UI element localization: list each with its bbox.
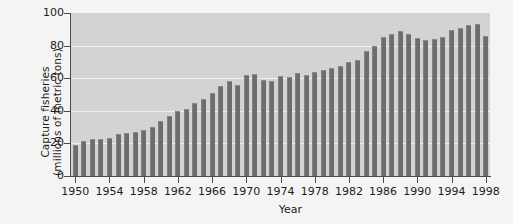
x-axis-tick (178, 177, 179, 183)
bar (98, 139, 103, 176)
y-axis-tick-label: 0 (8, 170, 64, 181)
y-axis-tick-label: 80 (8, 40, 64, 51)
bar (338, 66, 343, 176)
bar (141, 130, 146, 176)
bar (355, 60, 360, 176)
y-axis-tick (64, 143, 70, 144)
bar (252, 74, 257, 176)
x-axis-tick (349, 177, 350, 183)
bar (107, 138, 112, 176)
bar (329, 68, 334, 176)
y-axis-tick (64, 13, 70, 14)
y-axis-tick (64, 78, 70, 79)
y-axis-tick (64, 46, 70, 47)
bar (466, 25, 471, 176)
bar (312, 72, 317, 176)
y-axis-tick-label: 100 (8, 7, 64, 18)
bar (295, 73, 300, 176)
bar (124, 133, 129, 176)
bar (287, 77, 292, 176)
x-axis-tick (486, 177, 487, 183)
bar (158, 121, 163, 176)
bar (321, 70, 326, 176)
bar (432, 39, 437, 176)
bar (458, 28, 463, 176)
bar (81, 141, 86, 176)
y-axis-tick-label: 60 (8, 72, 64, 83)
x-axis-tick (75, 177, 76, 183)
bar (175, 111, 180, 176)
y-axis-line (70, 13, 71, 177)
bar (304, 75, 309, 176)
x-axis-title-text: Year (279, 203, 302, 216)
bar (440, 37, 445, 176)
y-axis-tick-label: 20 (8, 137, 64, 148)
bar (116, 134, 121, 176)
bar (364, 51, 369, 177)
bar (381, 37, 386, 176)
y-axis-tick (64, 111, 70, 112)
bar-series (71, 13, 490, 176)
bar (398, 31, 403, 176)
bar (227, 81, 232, 176)
bar (261, 80, 266, 176)
bar (244, 75, 249, 176)
y-axis-tick-label: 40 (8, 105, 64, 116)
x-axis-tick (417, 177, 418, 183)
x-axis-tick (315, 177, 316, 183)
bar (73, 145, 78, 176)
x-axis-tick (212, 177, 213, 183)
x-axis-tick (246, 177, 247, 183)
x-axis-tick-label: 1998 (463, 186, 509, 198)
x-axis-tick (144, 177, 145, 183)
bar (372, 46, 377, 176)
bar (415, 38, 420, 176)
bar (475, 24, 480, 176)
bar (90, 139, 95, 176)
bar (423, 40, 428, 176)
y-axis-tick (64, 176, 70, 177)
bar (483, 36, 488, 176)
bar (133, 132, 138, 176)
plot-area (71, 13, 490, 176)
chart-figure: Capture fisheries (millions of metric to… (0, 0, 513, 224)
x-axis-tick (383, 177, 384, 183)
bar (269, 81, 274, 176)
x-axis-title: Year (0, 203, 513, 216)
bar (406, 34, 411, 176)
bar (210, 93, 215, 176)
x-axis-tick (109, 177, 110, 183)
bar (449, 30, 454, 176)
bar (192, 103, 197, 176)
bar (278, 76, 283, 176)
bar (235, 85, 240, 176)
bar (346, 62, 351, 176)
bar (184, 109, 189, 176)
bar (389, 34, 394, 176)
x-axis-tick (452, 177, 453, 183)
bar (150, 127, 155, 176)
x-axis-tick (281, 177, 282, 183)
bar (201, 99, 206, 176)
bar (167, 116, 172, 176)
bar (218, 86, 223, 176)
